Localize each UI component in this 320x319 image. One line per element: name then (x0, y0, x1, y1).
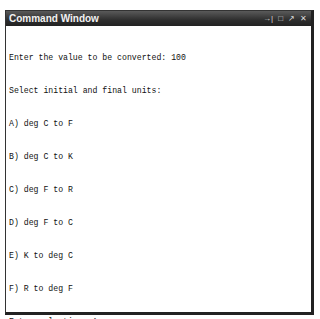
console-line: Enter the value to be converted: 100 (9, 52, 308, 63)
console-line: D) deg F to C (9, 217, 308, 228)
command-window: Command Window →| □ ↗ ✕ Enter the value … (5, 10, 314, 315)
window-title: Command Window (9, 13, 99, 24)
console-line: F) R to deg F (9, 283, 308, 294)
close-icon[interactable]: ✕ (300, 11, 307, 26)
title-bar[interactable]: Command Window →| □ ↗ ✕ (6, 11, 311, 26)
console-line: C) deg F to R (9, 184, 308, 195)
console-line: A) deg C to F (9, 118, 308, 129)
window-controls: →| □ ↗ ✕ (263, 11, 307, 26)
console-line: E) K to deg C (9, 250, 308, 261)
console-line: Select initial and final units: (9, 85, 308, 96)
maximize-icon[interactable]: □ (278, 11, 283, 26)
console-output[interactable]: Enter the value to be converted: 100 Sel… (6, 26, 311, 319)
pin-icon[interactable]: ↗ (288, 11, 295, 26)
console-line: B) deg C to K (9, 151, 308, 162)
undock-icon[interactable]: →| (263, 11, 273, 26)
